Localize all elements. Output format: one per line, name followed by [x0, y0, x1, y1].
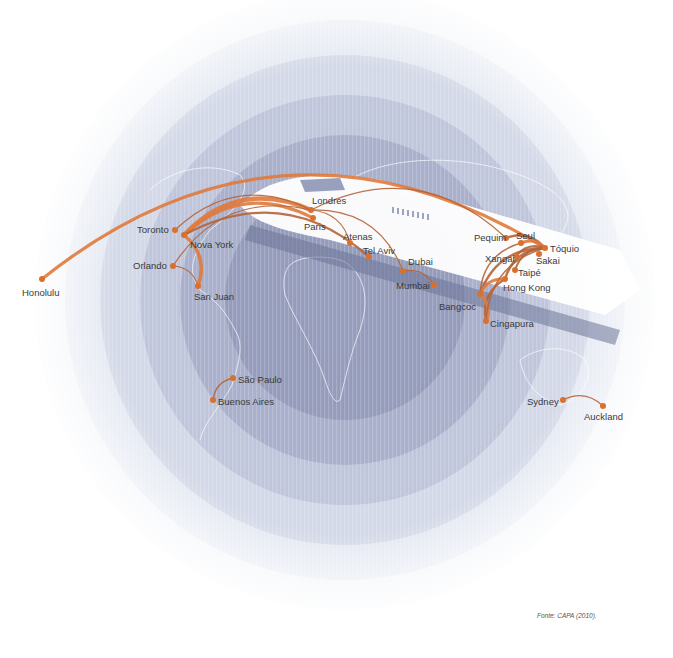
city-marker-nova-york [181, 232, 187, 238]
city-marker-mumbai [431, 282, 437, 288]
city-marker-cingapura [483, 318, 489, 324]
city-marker-toquio [542, 245, 548, 251]
city-label-londres: Londres [312, 195, 347, 206]
source-note: Fonte: CAPA (2010). [537, 612, 597, 619]
city-marker-orlando [170, 263, 176, 269]
city-label-honolulu: Honolulu [22, 287, 60, 298]
city-marker-buenos-aires [210, 397, 216, 403]
city-marker-dubai [400, 268, 406, 274]
city-label-san-juan: San Juan [194, 291, 234, 302]
city-label-seul: Seul [516, 230, 535, 241]
city-label-nova-york: Nova York [190, 239, 234, 250]
city-label-toronto: Toronto [137, 224, 169, 235]
concentric-rings [33, 0, 657, 612]
city-marker-sao-paulo [230, 375, 236, 381]
city-label-dubai: Dubai [408, 256, 433, 267]
city-label-tel-aviv: Tel Aviv [363, 245, 395, 256]
city-marker-honolulu [39, 276, 45, 282]
city-label-sakai: Sakai [536, 255, 560, 266]
city-label-pequim: Pequim [474, 232, 506, 243]
city-label-cingapura: Cingapura [490, 318, 535, 329]
city-label-xangai: Xangai [485, 253, 515, 264]
city-marker-bangcoc [477, 291, 483, 297]
city-label-orlando: Orlando [133, 260, 167, 271]
city-label-sao-paulo: São Paulo [238, 374, 282, 385]
city-label-mumbai: Mumbai [396, 280, 430, 291]
city-marker-san-juan [195, 283, 201, 289]
city-marker-toronto [172, 227, 178, 233]
city-label-auckland: Auckland [584, 411, 623, 422]
city-label-toquio: Tóquio [550, 243, 579, 254]
city-marker-londres [308, 207, 314, 213]
city-label-paris: Paris [304, 221, 326, 232]
city-label-sydney: Sydney [527, 396, 559, 407]
city-label-taipe: Taipé [518, 267, 541, 278]
city-marker-auckland [600, 403, 606, 409]
city-label-hong-kong: Hong Kong [503, 282, 551, 293]
air-routes-map: HonoluluTorontoNova YorkOrlandoSan JuanL… [0, 0, 673, 658]
city-label-bangcoc: Bangcoc [439, 301, 476, 312]
city-marker-sydney [560, 397, 566, 403]
city-label-atenas: Atenas [343, 231, 373, 242]
city-label-buenos-aires: Buenos Aires [218, 396, 274, 407]
